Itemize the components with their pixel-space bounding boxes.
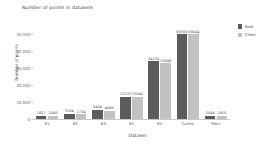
bar-wrapper: 13233	[120, 26, 131, 119]
x-axis-title: Dataset	[0, 133, 275, 138]
bar[interactable]: 3104	[64, 114, 75, 119]
bar-value-label: 13233	[120, 92, 131, 96]
bar-wrapper: 32848	[160, 26, 171, 119]
legend-item-real[interactable]: Real	[238, 24, 256, 29]
bar-value-label: 2044	[206, 111, 215, 115]
legend-item-clean[interactable]: Clean	[238, 32, 256, 37]
x-axis-tick-label: B5	[157, 121, 162, 126]
bar-wrapper: 13040	[132, 26, 143, 119]
x-axis-tick-label: Turkey	[181, 121, 194, 126]
plot-area: 010,00020,00030,00040,00050,00018122040B…	[33, 26, 230, 119]
legend-label: Clean	[245, 32, 256, 37]
x-axis-tick-label: B2	[73, 121, 78, 126]
bar-group: 31042734B2	[61, 26, 89, 119]
bar-value-label: 1915	[217, 111, 226, 115]
bar[interactable]: 50044	[188, 34, 199, 119]
bar-value-label: 32848	[160, 59, 171, 63]
bar[interactable]: 50060	[177, 34, 188, 119]
bar-wrapper: 5404	[92, 26, 103, 119]
legend: Real Clean	[238, 24, 256, 37]
bar-value-label: 2040	[49, 111, 58, 115]
bar-group: 20441915Mars	[202, 26, 230, 119]
bar[interactable]: 1812	[36, 116, 47, 119]
bar-wrapper: 34130	[148, 26, 159, 119]
bar[interactable]: 2040	[48, 116, 59, 119]
bar-chart: Number of points in datasets Number of p…	[0, 0, 275, 146]
bar[interactable]: 2044	[205, 116, 216, 119]
bar-value-label: 50044	[188, 30, 199, 34]
bar[interactable]: 34130	[148, 61, 159, 119]
bar-wrapper: 2044	[205, 26, 216, 119]
bar-group: 54044690B3	[89, 26, 117, 119]
bar-wrapper: 50060	[177, 26, 188, 119]
legend-swatch-icon	[238, 24, 242, 28]
bar-wrapper: 1915	[217, 26, 228, 119]
bar-group: 5006050044Turkey	[174, 26, 202, 119]
bar-wrapper: 4690	[104, 26, 115, 119]
bar-group: 18122040B1	[33, 26, 61, 119]
bar-group: 3413032848B5	[146, 26, 174, 119]
x-axis-tick-label: B3	[101, 121, 106, 126]
bar[interactable]: 32848	[160, 63, 171, 119]
bar-value-label: 34130	[148, 57, 159, 61]
bar-value-label: 1812	[37, 111, 46, 115]
x-axis-tick-label: B1	[44, 121, 49, 126]
bar-value-label: 2734	[77, 110, 86, 114]
bar[interactable]: 1915	[217, 116, 228, 119]
bar-group: 1323313040B4	[117, 26, 145, 119]
bar[interactable]: 13040	[132, 97, 143, 119]
bar[interactable]: 2734	[76, 114, 87, 119]
bar[interactable]: 13233	[120, 97, 131, 119]
legend-swatch-icon	[238, 33, 242, 37]
bar[interactable]: 5404	[92, 110, 103, 119]
bar-value-label: 4690	[105, 106, 114, 110]
bar-wrapper: 50044	[188, 26, 199, 119]
bar-wrapper: 2040	[48, 26, 59, 119]
bar-value-label: 50060	[176, 30, 187, 34]
chart-title: Number of points in datasets	[22, 5, 93, 10]
bar-wrapper: 1812	[36, 26, 47, 119]
x-axis-tick-label: Mars	[211, 121, 220, 126]
x-axis-tick-label: B4	[129, 121, 134, 126]
bar-value-label: 3104	[65, 109, 74, 113]
bar-value-label: 5404	[93, 105, 102, 109]
bar-wrapper: 2734	[76, 26, 87, 119]
bar-value-label: 13040	[132, 92, 143, 96]
legend-label: Real	[245, 24, 253, 29]
bar[interactable]: 4690	[104, 111, 115, 119]
bar-wrapper: 3104	[64, 26, 75, 119]
